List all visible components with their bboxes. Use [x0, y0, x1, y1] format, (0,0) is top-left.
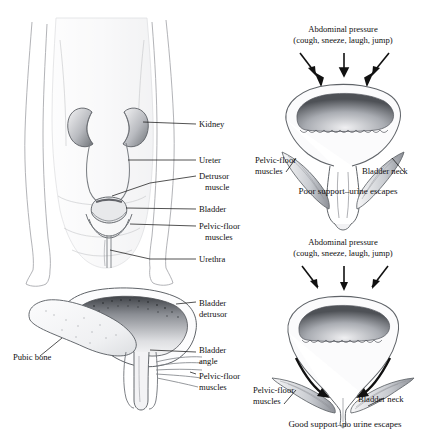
good-label-pelvic-floor: Pelvic-floor: [253, 385, 294, 396]
good-arrowheads: [310, 279, 380, 291]
good-label-bladder-neck: Bladder neck: [358, 394, 404, 405]
good-bladder-dome-shading: [299, 305, 390, 341]
good-heading-line2: (cough, sneeze, laugh, jump): [268, 248, 418, 259]
good-support-caption: Good support–no urine escapes: [250, 419, 439, 429]
figure-canvas: Kidney Ureter Detrusor muscle Bladder Pe…: [0, 0, 439, 439]
good-support-artwork: [0, 0, 439, 439]
good-heading-line1: Abdominal pressure: [278, 237, 408, 248]
good-label-pelvic-floor-cont: muscles: [253, 396, 281, 407]
